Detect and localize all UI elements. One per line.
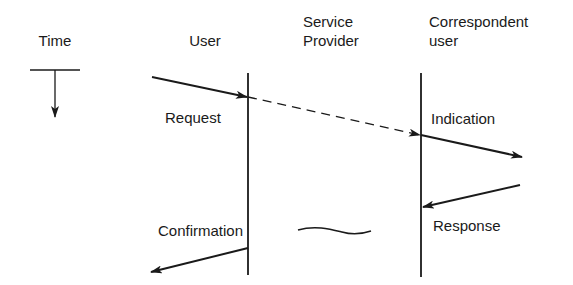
tilde-icon	[298, 228, 371, 234]
user-column-label: User	[189, 32, 221, 49]
service-provider-label-line2: Provider	[303, 32, 359, 49]
indication-label: Indication	[431, 110, 495, 127]
response-label: Response	[433, 217, 501, 234]
indication-arrow	[421, 135, 522, 157]
request-arrow	[152, 77, 247, 97]
correspondent-label-line2: user	[429, 32, 458, 49]
time-label: Time	[39, 32, 72, 49]
request-label: Request	[165, 109, 222, 126]
response-arrow	[423, 185, 520, 207]
confirmation-arrow	[151, 248, 248, 272]
time-arrow-icon	[30, 70, 80, 117]
confirmation-label: Confirmation	[158, 222, 243, 239]
correspondent-label-line1: Correspondent	[429, 13, 529, 30]
provider-transit-dashed-arrow	[248, 97, 420, 135]
service-provider-label-line1: Service	[303, 13, 353, 30]
service-primitive-diagram: Time User Service Provider Correspondent…	[0, 0, 573, 285]
